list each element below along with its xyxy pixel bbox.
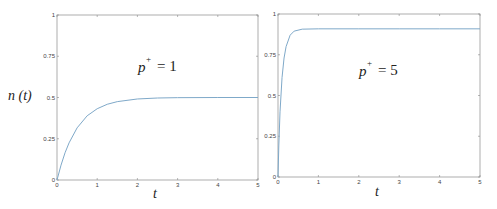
plot-left: 01234500.250.50.751 bbox=[43, 12, 260, 188]
y-tick-label: 1 bbox=[273, 11, 277, 17]
x-tick-label: 5 bbox=[256, 182, 260, 188]
y-tick-label: 0.5 bbox=[47, 95, 56, 101]
annotation-left-sup: + bbox=[146, 54, 151, 64]
y-tick-label: 0.75 bbox=[43, 53, 55, 59]
x-tick-label: 0 bbox=[55, 182, 59, 188]
annotation-right: p + = 5 bbox=[358, 58, 398, 79]
x-tick-label: 0 bbox=[276, 179, 280, 185]
x-tick-label: 3 bbox=[398, 179, 402, 185]
x-tick-label: 1 bbox=[317, 179, 321, 185]
annotation-left-value: = 1 bbox=[157, 58, 177, 74]
y-tick-label: 0.25 bbox=[43, 136, 55, 142]
x-axis-label-right: t bbox=[375, 184, 380, 199]
figure: 01234500.250.50.751 01234500.250.50.751 … bbox=[0, 0, 497, 209]
annotation-right-sup: + bbox=[367, 58, 372, 68]
x-tick-label: 1 bbox=[96, 182, 100, 188]
x-axis-label-left: t bbox=[153, 186, 158, 201]
x-tick-label: 4 bbox=[438, 179, 442, 185]
plot-frame bbox=[278, 14, 480, 177]
y-tick-label: 1 bbox=[52, 12, 56, 18]
x-tick-label: 5 bbox=[478, 179, 482, 185]
x-tick-label: 2 bbox=[136, 182, 140, 188]
y-tick-label: 0.75 bbox=[264, 52, 276, 58]
y-tick-label: 0.25 bbox=[264, 133, 276, 139]
annotation-left-base: p bbox=[137, 59, 146, 75]
x-tick-label: 2 bbox=[357, 179, 361, 185]
plot-right: 01234500.250.50.751 bbox=[264, 11, 482, 185]
annotation-left: p + = 1 bbox=[137, 54, 177, 75]
annotation-right-value: = 5 bbox=[378, 62, 398, 78]
y-axis-label: n (t) bbox=[8, 88, 32, 104]
data-line bbox=[278, 29, 480, 177]
x-tick-label: 4 bbox=[216, 182, 220, 188]
annotation-right-base: p bbox=[358, 63, 367, 79]
x-tick-label: 3 bbox=[176, 182, 180, 188]
y-tick-label: 0.5 bbox=[268, 93, 277, 99]
data-line bbox=[57, 98, 258, 181]
